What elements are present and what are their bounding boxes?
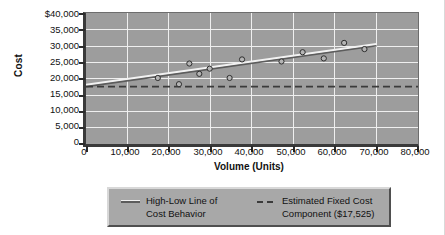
x-axis-tick-labels: 0 10,000 20,000 30,000 40,000 50,000 60,… bbox=[0, 146, 445, 160]
dashed-line-swatch-icon bbox=[257, 201, 276, 203]
plot-area bbox=[86, 13, 418, 144]
data-point-marker bbox=[207, 66, 212, 71]
y-tickmark-25000 bbox=[79, 62, 85, 64]
x-tick-label-80000: 80,000 bbox=[387, 146, 443, 157]
y-tickmark-10000 bbox=[79, 111, 85, 113]
data-point-marker bbox=[227, 75, 232, 80]
y-tickmark-15000 bbox=[79, 95, 85, 97]
data-point-marker bbox=[342, 40, 347, 45]
chart-legend: High-Low Line of Cost Behavior Estimated… bbox=[107, 187, 391, 227]
plot-frame bbox=[83, 12, 419, 147]
data-point-marker bbox=[197, 71, 202, 76]
y-tick-label-5000: 5,000 bbox=[22, 121, 79, 131]
solid-line-swatch-icon bbox=[121, 200, 140, 203]
y-tick-label-30000: 30,000 bbox=[22, 41, 79, 51]
data-point-marker bbox=[155, 75, 160, 80]
legend-label-line1: High-Low Line of bbox=[146, 195, 217, 206]
y-tickmark-20000 bbox=[79, 78, 85, 80]
legend-label-line2: Cost Behavior bbox=[146, 208, 206, 219]
y-tick-label-25000: 25,000 bbox=[22, 57, 79, 67]
y-axis-tick-labels: $40,000 35,000 30,000 25,000 20,000 15,0… bbox=[22, 9, 79, 145]
legend-label-line1: Estimated Fixed Cost bbox=[282, 195, 372, 206]
data-point-marker bbox=[300, 50, 305, 55]
legend-label-high-low-line: High-Low Line of Cost Behavior bbox=[146, 195, 256, 220]
data-point-marker bbox=[321, 56, 326, 61]
y-tickmark-40000 bbox=[79, 13, 85, 15]
y-tickmark-5000 bbox=[79, 127, 85, 129]
data-point-marker bbox=[239, 57, 244, 62]
data-point-marker bbox=[362, 46, 367, 51]
x-axis-title: Volume (Units) bbox=[83, 161, 415, 172]
y-tick-label-35000: 35,000 bbox=[22, 25, 79, 35]
y-tickmark-35000 bbox=[79, 29, 85, 31]
y-tick-label-15000: 15,000 bbox=[22, 89, 79, 99]
y-tick-label-20000: 20,000 bbox=[22, 73, 79, 83]
chart-figure: Cost $40,000 35,000 30,000 25,000 20,000… bbox=[0, 0, 445, 235]
y-tickmark-30000 bbox=[79, 46, 85, 48]
data-point-marker bbox=[187, 61, 192, 66]
data-point-marker bbox=[176, 82, 181, 87]
y-tick-label-40000: $40,000 bbox=[22, 9, 79, 19]
legend-label-line2: Component ($17,525) bbox=[282, 208, 374, 219]
data-point-group bbox=[155, 40, 367, 86]
data-point-marker bbox=[279, 59, 284, 64]
legend-label-fixed-cost: Estimated Fixed Cost Component ($17,525) bbox=[282, 195, 400, 220]
data-series-layer bbox=[86, 13, 418, 144]
y-tickmark-0 bbox=[79, 143, 85, 145]
y-tick-label-10000: 10,000 bbox=[22, 105, 79, 115]
